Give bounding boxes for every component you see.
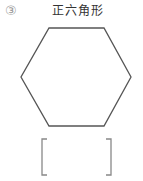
left-bracket-icon xyxy=(42,139,47,175)
figure xyxy=(0,0,143,181)
answer-box[interactable] xyxy=(42,139,111,175)
right-bracket-icon xyxy=(106,139,111,175)
hexagon-shape xyxy=(21,28,131,126)
